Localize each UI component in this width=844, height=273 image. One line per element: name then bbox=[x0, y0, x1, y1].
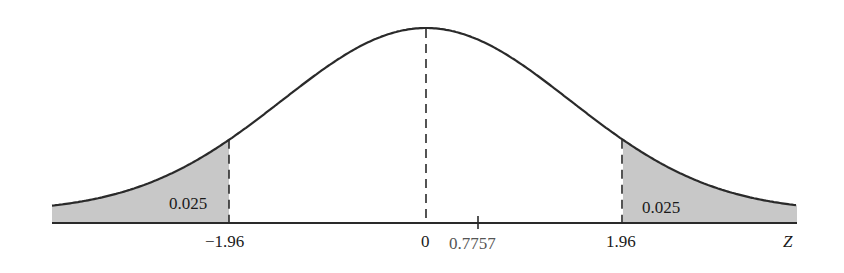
tick-label-pos-1-96: 1.96 bbox=[606, 233, 636, 250]
tick-label-neg-1-96: −1.96 bbox=[205, 233, 244, 250]
right-tail-area-label: 0.025 bbox=[642, 199, 680, 216]
tick-label-0-7757: 0.7757 bbox=[449, 235, 496, 252]
x-axis-label: Z bbox=[783, 233, 792, 250]
tick-label-zero: 0 bbox=[421, 233, 430, 250]
left-tail-area-label: 0.025 bbox=[169, 195, 207, 212]
